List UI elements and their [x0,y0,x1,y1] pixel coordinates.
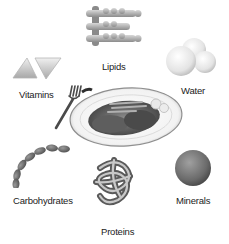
label-proteins: Proteins [101,226,134,237]
lipid-molecule-icon [84,4,144,48]
label-vitamins: Vitamins [19,89,54,100]
label-water: Water [181,85,205,96]
label-minerals: Minerals [176,195,210,206]
sphere-icon [173,148,213,188]
triangles-icon [11,55,63,81]
bead-chain-icon [10,144,72,188]
folded-protein-icon [90,156,138,208]
plate-of-food [52,84,184,150]
nutrients-diagram: Lipids Vitamins Water [0,0,229,244]
label-carbohydrates: Carbohydrates [13,195,73,206]
label-lipids: Lipids [102,61,126,72]
water-molecule-icon [164,36,218,78]
